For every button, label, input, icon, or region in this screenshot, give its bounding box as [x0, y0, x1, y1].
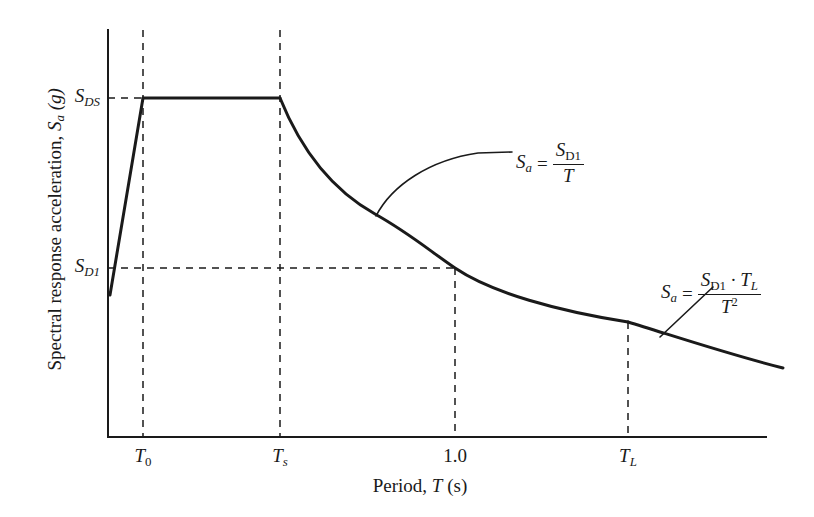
response-spectrum-curve: [110, 98, 783, 368]
annotation-2-numerator: SD1 · TL: [698, 270, 761, 294]
annotation-2-denominator-symbol: T: [721, 295, 732, 316]
x-axis-units: (s): [442, 475, 467, 496]
leader-line-constant-velocity: [376, 152, 512, 216]
annotation-2-lhs-symbol: S: [661, 281, 671, 302]
annotation-1-equals: =: [537, 154, 548, 173]
x-axis-symbol: T: [432, 475, 443, 496]
annotation-2-lhs-subscript: a: [671, 290, 677, 305]
annotation-1-numerator: SD1: [553, 140, 584, 164]
y-tick-sds-subscript: DS: [84, 94, 100, 109]
x-tick-t0-symbol: T: [134, 445, 145, 466]
x-tick-tl-subscript: L: [630, 454, 637, 469]
y-tick-label-sd1: SD1: [30, 256, 100, 279]
annotation-2-numerator-symbol: S: [701, 269, 711, 290]
spectrum-plot-svg: [0, 0, 814, 517]
y-tick-sd1-subscript: D1: [84, 264, 100, 279]
annotation-constant-velocity-equation: Sa = SD1 T: [516, 140, 584, 186]
annotation-1-lhs: Sa: [516, 152, 532, 175]
y-tick-sd1-symbol: S: [75, 255, 85, 276]
annotation-2-fraction: SD1 · TL T2: [698, 270, 761, 317]
annotation-2-denominator-exponent: 2: [731, 295, 737, 309]
x-axis-title-text: Period,: [373, 475, 432, 496]
curve-branch-constant-velocity: [280, 98, 628, 322]
x-tick-label-one: 1.0: [425, 446, 485, 465]
annotation-1-numerator-subscript: D1: [565, 148, 581, 163]
x-tick-label-t0: T0: [113, 446, 173, 469]
y-axis-symbol-subscript: a: [52, 115, 67, 121]
annotation-2-equals: =: [682, 284, 693, 303]
annotation-2-numerator-extra: · T: [726, 269, 751, 290]
x-tick-t0-subscript: 0: [145, 454, 151, 469]
y-tick-sds-symbol: S: [75, 85, 85, 106]
curve-branch-linear-ramp: [110, 98, 143, 295]
curve-branch-constant-displacement: [628, 322, 783, 368]
x-tick-label-ts: Ts: [250, 446, 310, 469]
annotation-2-denominator: T2: [698, 294, 761, 317]
x-tick-label-tl: TL: [598, 446, 658, 469]
y-tick-label-sds: SDS: [30, 86, 100, 109]
annotation-2-lhs: Sa: [661, 282, 677, 305]
annotation-1-denominator: T: [553, 164, 584, 187]
x-tick-ts-subscript: s: [283, 454, 288, 469]
annotation-1-fraction: SD1 T: [553, 140, 584, 186]
annotation-2-numerator-subscript: D1: [710, 278, 726, 293]
x-tick-tl-symbol: T: [619, 445, 630, 466]
y-axis-symbol: S: [44, 121, 65, 131]
annotation-constant-displacement-equation: Sa = SD1 · TL T2: [661, 270, 761, 317]
annotation-1-lhs-subscript: a: [526, 159, 532, 174]
y-axis-title: Spectral response acceleration, Sa (g): [45, 64, 68, 394]
x-tick-ts-symbol: T: [272, 445, 283, 466]
x-axis-title: Period, T (s): [320, 476, 520, 495]
y-axis-title-text: Spectral response acceleration,: [44, 131, 65, 371]
annotation-2-numerator-extra-subscript: L: [751, 278, 758, 293]
design-response-spectrum-figure: Spectral response acceleration, Sa (g) P…: [0, 0, 814, 517]
annotation-1-numerator-symbol: S: [556, 139, 566, 160]
annotation-1-lhs-symbol: S: [516, 151, 526, 172]
